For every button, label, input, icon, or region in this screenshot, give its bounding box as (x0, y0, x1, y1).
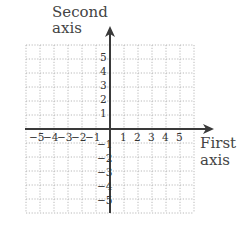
y-tick-label: −2 (97, 153, 112, 164)
x-tick-label: 4 (162, 132, 169, 143)
x-tick-label: 1 (120, 132, 127, 143)
y-axis-title-line2: axis (52, 21, 82, 36)
x-tick-label: 2 (134, 132, 141, 143)
x-tick-label: 3 (148, 132, 155, 143)
y-tick-label: −3 (97, 167, 112, 178)
y-tick-label: 4 (100, 66, 107, 77)
y-tick-label: −1 (97, 139, 112, 150)
x-tick-label: 5 (176, 132, 183, 143)
y-tick-label: −4 (97, 181, 112, 192)
grid-and-axes (0, 0, 244, 229)
y-tick-label: −5 (97, 195, 112, 206)
y-tick-label: 1 (100, 108, 107, 119)
x-axis-title-line2: axis (200, 153, 230, 168)
y-tick-label: 3 (100, 80, 107, 91)
y-axis-title-line1: Second (52, 5, 108, 20)
y-tick-label: 5 (100, 52, 107, 63)
coordinate-plane: Second axis First axis −5 −4 −3 −2 −1 1 … (0, 0, 244, 229)
x-axis-title-line1: First (200, 136, 236, 151)
y-tick-label: 2 (100, 94, 107, 105)
